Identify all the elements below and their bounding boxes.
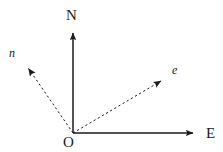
diagram-canvas — [0, 0, 223, 152]
origin-label: O — [63, 135, 74, 150]
north-axis-label: N — [66, 8, 77, 23]
vector-diagram-figure: N E O n e — [0, 0, 223, 152]
east-axis-label: E — [206, 126, 215, 141]
n-vector-label: n — [9, 47, 15, 59]
e-vector-line — [73, 81, 161, 133]
n-vector-line — [29, 69, 74, 134]
e-vector-label: e — [172, 64, 177, 76]
